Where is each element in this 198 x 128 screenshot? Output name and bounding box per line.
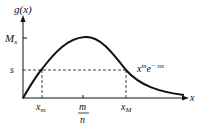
x-tick-xm-sub: m: [40, 106, 45, 114]
svg-text:xme− nx: xme− nx: [136, 62, 165, 74]
svg-text:xM: xM: [120, 101, 132, 114]
x-axis-label: x: [189, 92, 195, 103]
x-tick-mode-num: m: [79, 101, 86, 112]
curve-label-exp2: − nx: [151, 62, 165, 70]
svg-text:m: m: [79, 101, 86, 112]
x-axis-arrow-icon: [182, 96, 189, 101]
svg-text:x: x: [189, 92, 195, 103]
svg-text:xm: xm: [35, 101, 46, 114]
svg-text:Mx: Mx: [4, 32, 18, 46]
svg-text:g(x): g(x): [14, 3, 32, 16]
gamma-shape-diagram: g(x) Mx s xme− nx x xm m n xM: [0, 0, 198, 128]
svg-text:n: n: [80, 114, 85, 125]
y-axis-arrow-icon: [21, 15, 26, 22]
x-tick-mode-den: n: [80, 114, 85, 125]
svg-text:s: s: [10, 64, 14, 75]
y-axis-label: g(x): [14, 3, 32, 16]
x-tick-xM-sub: M: [124, 106, 132, 114]
y-tick-s-label: s: [10, 64, 14, 75]
y-tick-max-sub: x: [13, 38, 18, 46]
